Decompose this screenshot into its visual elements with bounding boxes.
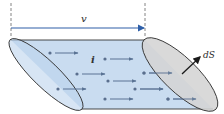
velocity-label: v	[81, 13, 87, 24]
flow-tube-diagram: v	[0, 0, 224, 114]
surface-element-label: dS	[203, 50, 215, 60]
current-label: i	[91, 54, 95, 65]
